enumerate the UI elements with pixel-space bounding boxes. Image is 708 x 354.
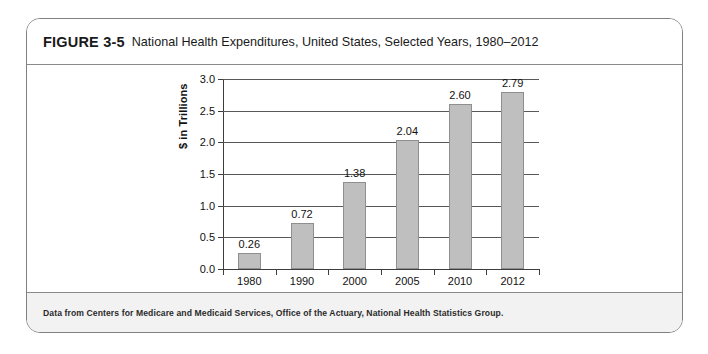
x-axis-tick-mark xyxy=(328,269,329,275)
x-axis-category-label: 1990 xyxy=(290,275,314,287)
y-axis-tick-mark xyxy=(218,174,223,175)
figure-card: FIGURE 3-5 National Health Expenditures,… xyxy=(26,18,683,333)
x-axis-tick-mark xyxy=(223,269,224,275)
figure-title-text: National Health Expenditures, United Sta… xyxy=(132,35,539,49)
x-axis-tick-mark xyxy=(539,269,540,275)
y-axis-tick-label: 2.5 xyxy=(200,105,215,117)
bar-value-label: 2.04 xyxy=(397,125,418,137)
gridline xyxy=(223,142,539,143)
bar-value-label: 2.60 xyxy=(449,89,470,101)
gridline xyxy=(223,237,539,238)
x-axis-category-label: 2012 xyxy=(500,275,524,287)
bar: 1.38 xyxy=(343,182,366,269)
y-axis-tick-mark xyxy=(218,142,223,143)
bar-value-label: 2.79 xyxy=(502,77,523,89)
bar-value-label: 0.72 xyxy=(291,208,312,220)
bar: 0.26 xyxy=(238,253,261,269)
x-axis-category-label: 2010 xyxy=(448,275,472,287)
y-axis-tick-label: 3.0 xyxy=(200,73,215,85)
y-axis-tick-label: 2.0 xyxy=(200,136,215,148)
figure-title-bar: FIGURE 3-5 National Health Expenditures,… xyxy=(27,19,682,65)
y-axis-title: $ in Trillions xyxy=(177,83,189,149)
y-axis-tick-label: 1.5 xyxy=(200,168,215,180)
source-note: Data from Centers for Medicare and Medic… xyxy=(43,308,503,318)
gridline xyxy=(223,79,539,80)
y-axis-tick-mark xyxy=(218,79,223,80)
bar-value-label: 1.38 xyxy=(344,167,365,179)
screenshot-root: FIGURE 3-5 National Health Expenditures,… xyxy=(0,0,708,354)
figure-footer: Data from Centers for Medicare and Medic… xyxy=(27,292,682,332)
bar: 0.72 xyxy=(291,223,314,269)
x-axis-tick-mark xyxy=(276,269,277,275)
gridline xyxy=(223,206,539,207)
bar: 2.60 xyxy=(449,104,472,269)
x-axis-category-label: 1980 xyxy=(237,275,261,287)
chart-body: $ in Trillions 0.00.51.01.52.02.53.00.26… xyxy=(27,65,682,292)
x-axis-tick-mark xyxy=(434,269,435,275)
y-axis-tick-mark xyxy=(218,111,223,112)
bar: 2.04 xyxy=(396,140,419,269)
bar: 2.79 xyxy=(501,92,524,269)
y-axis-tick-mark xyxy=(218,206,223,207)
gridline xyxy=(223,174,539,175)
gridline xyxy=(223,111,539,112)
x-axis-tick-mark xyxy=(486,269,487,275)
x-axis-tick-mark xyxy=(381,269,382,275)
y-axis-tick-label: 0.0 xyxy=(200,263,215,275)
y-axis-tick-label: 1.0 xyxy=(200,200,215,212)
x-axis-category-label: 2005 xyxy=(395,275,419,287)
x-axis-category-label: 2000 xyxy=(342,275,366,287)
figure-number-label: FIGURE 3-5 xyxy=(43,34,125,50)
y-axis-tick-label: 0.5 xyxy=(200,231,215,243)
bar-value-label: 0.26 xyxy=(239,238,260,250)
chart-stage: $ in Trillions 0.00.51.01.52.02.53.00.26… xyxy=(27,65,682,292)
plot-area: 0.00.51.01.52.02.53.00.2619800.7219901.3… xyxy=(223,79,539,269)
y-axis-tick-mark xyxy=(218,237,223,238)
